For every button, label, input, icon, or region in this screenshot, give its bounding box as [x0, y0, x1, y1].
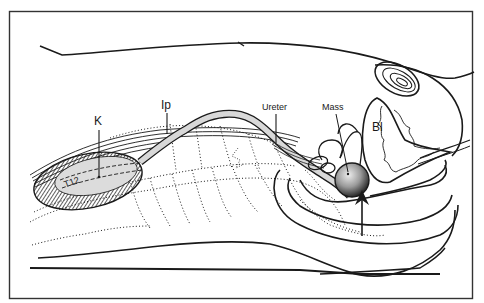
label-ureter: Ureter	[262, 103, 287, 112]
navel-rings	[369, 55, 425, 103]
bladder	[363, 98, 450, 183]
label-ip: Ip	[161, 99, 171, 111]
label-bladder: Bl	[372, 121, 383, 133]
back-outline	[40, 43, 474, 78]
label-mass: Mass	[322, 103, 344, 112]
pelvic-mass	[335, 163, 369, 197]
anatomical-diagram: K Ip Ureter Mass Bl T12	[0, 0, 484, 303]
diagram-drawing	[0, 0, 484, 303]
label-kidney: K	[94, 115, 102, 127]
leader-mass	[336, 114, 348, 172]
ureter	[140, 114, 350, 196]
